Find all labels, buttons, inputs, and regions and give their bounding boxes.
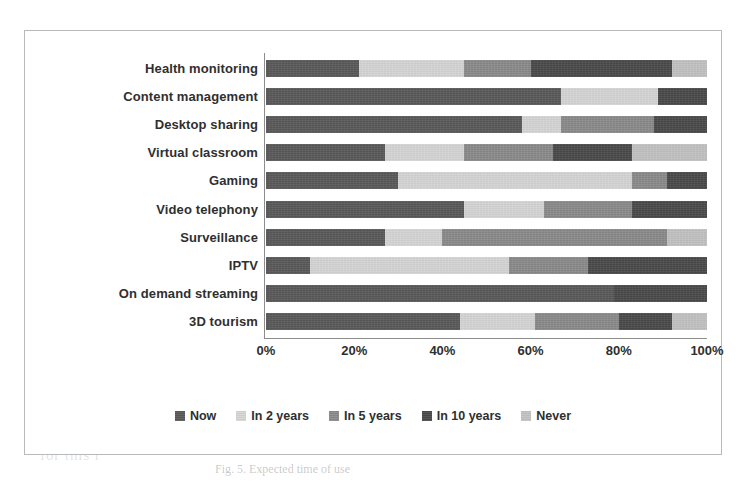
x-axis-tick-label: 0% [257,343,276,358]
bar-segment[interactable] [632,144,707,161]
legend-swatch-icon [329,411,339,421]
y-axis-label: Virtual classroom [147,139,258,167]
bar-segment[interactable] [266,313,460,330]
bar-segment[interactable] [398,172,632,189]
figure-caption: Fig. 5. Expected time of use [215,462,350,477]
stacked-bar[interactable] [266,313,707,330]
y-axis-category-labels: Health monitoringContent managementDeskt… [71,55,264,336]
chart-container: Health monitoringContent managementDeskt… [24,30,722,455]
bar-segment[interactable] [266,88,561,105]
legend-label: Now [190,409,216,423]
bar-segment[interactable] [464,60,530,77]
legend-swatch-icon [521,411,531,421]
bar-segment[interactable] [632,201,707,218]
bar-segment[interactable] [619,313,672,330]
bar-row [266,280,707,308]
bar-segment[interactable] [667,172,707,189]
y-axis-label: Video telephony [156,196,258,224]
bar-segment[interactable] [266,229,385,246]
stacked-bar[interactable] [266,116,707,133]
legend-label: In 5 years [344,409,402,423]
stacked-bar[interactable] [266,201,707,218]
x-axis-line [264,338,707,339]
bar-row [266,252,707,280]
legend-label: In 2 years [251,409,309,423]
stacked-bar[interactable] [266,229,707,246]
y-axis-label: IPTV [229,252,258,280]
y-axis-line [264,53,265,338]
bar-row [266,308,707,336]
bar-segment[interactable] [310,257,508,274]
bar-row [266,224,707,252]
bar-segment[interactable] [535,313,619,330]
bar-segment[interactable] [632,172,667,189]
bar-segment[interactable] [654,116,707,133]
x-axis-tick-label: 100% [690,343,723,358]
legend-swatch-icon [422,411,432,421]
bar-segment[interactable] [266,257,310,274]
x-axis-tick-label: 60% [518,343,544,358]
bar-segment[interactable] [522,116,562,133]
bar-segment[interactable] [672,60,707,77]
legend-item[interactable]: Now [175,409,216,423]
bar-row [266,83,707,111]
stacked-bar[interactable] [266,285,707,302]
bar-segment[interactable] [561,116,654,133]
y-axis-label: On demand streaming [119,280,258,308]
chart-legend: NowIn 2 yearsIn 5 yearsIn 10 yearsNever [25,409,721,423]
stacked-bar[interactable] [266,172,707,189]
y-axis-label: Gaming [209,167,258,195]
bar-row [266,196,707,224]
bar-row [266,139,707,167]
stacked-bar[interactable] [266,257,707,274]
legend-item[interactable]: Never [521,409,571,423]
legend-label: Never [536,409,571,423]
bar-segment[interactable] [561,88,658,105]
bar-row [266,55,707,83]
legend-item[interactable]: In 2 years [236,409,309,423]
legend-swatch-icon [236,411,246,421]
bar-row [266,167,707,195]
bar-segment[interactable] [266,172,398,189]
bar-segment[interactable] [266,201,464,218]
y-axis-label: Desktop sharing [155,111,258,139]
x-axis-tick-label: 80% [606,343,632,358]
bar-segment[interactable] [544,201,632,218]
bar-segment[interactable] [385,229,442,246]
stacked-bar[interactable] [266,144,707,161]
x-axis-tick-label: 20% [341,343,367,358]
bar-segment[interactable] [464,144,552,161]
bar-segment[interactable] [667,229,707,246]
y-axis-label: Content management [123,83,258,111]
bar-segment[interactable] [359,60,465,77]
bar-segment[interactable] [385,144,464,161]
bar-segment[interactable] [266,60,359,77]
bar-segment[interactable] [442,229,667,246]
bar-segment[interactable] [460,313,535,330]
plot-area [266,55,707,336]
y-axis-label: Health monitoring [145,55,258,83]
bar-segment[interactable] [588,257,707,274]
y-axis-label: Surveillance [180,224,258,252]
x-axis-tick-label: 40% [429,343,455,358]
bar-segment[interactable] [266,144,385,161]
legend-item[interactable]: In 10 years [422,409,502,423]
y-axis-label: 3D tourism [189,308,258,336]
x-axis-tick-labels: 0%20%40%60%80%100% [266,343,707,363]
bar-segment[interactable] [266,285,614,302]
bar-segment[interactable] [672,313,707,330]
legend-swatch-icon [175,411,185,421]
stacked-bar[interactable] [266,60,707,77]
stacked-bar[interactable] [266,88,707,105]
bar-segment[interactable] [531,60,672,77]
bar-segment[interactable] [464,201,543,218]
legend-label: In 10 years [437,409,502,423]
bar-segment[interactable] [509,257,588,274]
bar-segment[interactable] [658,88,707,105]
bar-row [266,111,707,139]
bar-segment[interactable] [614,285,707,302]
legend-item[interactable]: In 5 years [329,409,402,423]
bar-segment[interactable] [266,116,522,133]
bar-segment[interactable] [553,144,632,161]
